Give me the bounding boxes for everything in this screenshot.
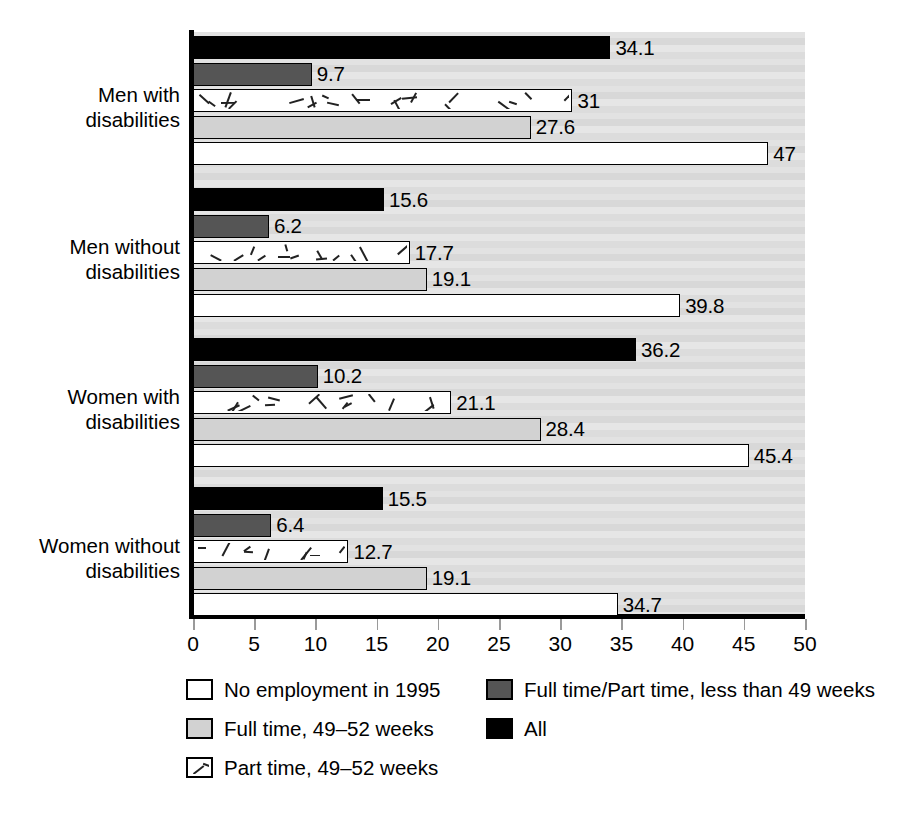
bar-ft[interactable] xyxy=(193,116,531,139)
category-label-line: Women without xyxy=(5,533,180,558)
bar-row: 28.4 xyxy=(193,418,813,441)
bar-ft[interactable] xyxy=(193,567,427,590)
bar-value-label: 39.8 xyxy=(685,294,724,318)
bar-none[interactable] xyxy=(193,593,618,616)
legend-swatch-ftpt-icon xyxy=(486,679,513,700)
legend-item-ftpt[interactable]: Full time/Part time, less than 49 weeks xyxy=(486,679,875,700)
bar-row: 47 xyxy=(193,142,813,165)
bar-ftpt[interactable] xyxy=(193,215,269,238)
bar-value-label: 27.6 xyxy=(536,115,575,139)
category-label-line: Men without xyxy=(5,234,180,259)
bar-row: 39.8 xyxy=(193,294,813,317)
x-tick xyxy=(254,619,256,630)
bar-row: 36.2 xyxy=(193,338,813,361)
category-label-3: Women withoutdisabilities xyxy=(5,533,180,583)
x-tick xyxy=(438,619,440,630)
bar-row: 45.4 xyxy=(193,444,813,467)
legend-swatch-all-icon xyxy=(486,718,513,739)
bar-pt[interactable] xyxy=(193,241,410,264)
x-tick xyxy=(805,619,807,630)
x-tick-label: 45 xyxy=(732,632,755,656)
x-tick-label: 15 xyxy=(365,632,388,656)
category-label-2: Women withdisabilities xyxy=(5,384,180,434)
legend-item-none[interactable]: No employment in 1995 xyxy=(186,679,441,700)
bar-value-label: 28.4 xyxy=(546,417,585,441)
category-label-line: Men with xyxy=(5,82,180,107)
bar-row: 31 xyxy=(193,89,813,112)
bar-row: 27.6 xyxy=(193,116,813,139)
bar-all[interactable] xyxy=(193,338,636,361)
x-tick-label: 50 xyxy=(793,632,816,656)
x-tick-label: 35 xyxy=(610,632,633,656)
bar-row: 10.2 xyxy=(193,365,813,388)
bar-row: 17.7 xyxy=(193,241,813,264)
bar-row: 19.1 xyxy=(193,268,813,291)
bar-value-label: 9.7 xyxy=(317,62,345,86)
x-tick xyxy=(560,619,562,630)
hatch-pattern xyxy=(196,92,569,109)
bar-row: 6.2 xyxy=(193,215,813,238)
bar-ft[interactable] xyxy=(193,418,541,441)
category-label-line: disabilities xyxy=(5,107,180,132)
x-tick-label: 0 xyxy=(187,632,199,656)
x-tick xyxy=(621,619,623,630)
bar-row: 21.1 xyxy=(193,391,813,414)
bar-value-label: 6.2 xyxy=(274,214,302,238)
legend-swatch-ft-icon xyxy=(186,718,213,739)
category-label-line: disabilities xyxy=(5,259,180,284)
bar-value-label: 19.1 xyxy=(432,566,471,590)
hatch-pattern xyxy=(190,761,209,774)
legend-item-pt[interactable]: Part time, 49–52 weeks xyxy=(186,757,438,778)
x-tick xyxy=(315,619,317,630)
bar-value-label: 12.7 xyxy=(353,540,392,564)
bar-all[interactable] xyxy=(193,188,384,211)
bar-ftpt[interactable] xyxy=(193,365,318,388)
legend-label: Full time/Part time, less than 49 weeks xyxy=(524,679,875,700)
bar-value-label: 47 xyxy=(773,142,795,166)
category-label-line: Women with xyxy=(5,384,180,409)
x-tick xyxy=(193,619,195,630)
bar-row: 6.4 xyxy=(193,514,813,537)
bar-ft[interactable] xyxy=(193,268,427,291)
bar-value-label: 17.7 xyxy=(415,241,454,265)
bar-pt[interactable] xyxy=(193,391,451,414)
bar-row: 9.7 xyxy=(193,63,813,86)
bar-value-label: 19.1 xyxy=(432,267,471,291)
hatch-pattern xyxy=(196,244,407,261)
bar-none[interactable] xyxy=(193,294,680,317)
x-tick xyxy=(377,619,379,630)
legend-label: No employment in 1995 xyxy=(224,679,441,700)
bar-row: 19.1 xyxy=(193,567,813,590)
bar-value-label: 45.4 xyxy=(754,444,793,468)
bar-value-label: 34.1 xyxy=(615,36,654,60)
bar-all[interactable] xyxy=(193,487,383,510)
legend-item-ft[interactable]: Full time, 49–52 weeks xyxy=(186,718,434,739)
bar-all[interactable] xyxy=(193,36,610,59)
x-tick-label: 40 xyxy=(671,632,694,656)
category-label-line: disabilities xyxy=(5,558,180,583)
bar-value-label: 36.2 xyxy=(641,338,680,362)
hatch-pattern xyxy=(196,394,448,411)
legend: No employment in 1995Full time/Part time… xyxy=(186,679,846,789)
category-label-0: Men withdisabilities xyxy=(5,82,180,132)
bar-value-label: 21.1 xyxy=(456,391,495,415)
x-tick-label: 10 xyxy=(304,632,327,656)
x-tick-label: 5 xyxy=(248,632,260,656)
bar-none[interactable] xyxy=(193,444,749,467)
x-tick xyxy=(499,619,501,630)
bar-none[interactable] xyxy=(193,142,768,165)
bar-ftpt[interactable] xyxy=(193,63,312,86)
bar-pt[interactable] xyxy=(193,89,572,112)
legend-label: All xyxy=(524,718,547,739)
bar-value-label: 34.7 xyxy=(623,593,662,617)
bar-pt[interactable] xyxy=(193,540,348,563)
legend-swatch-pt-icon xyxy=(186,757,213,778)
x-tick-label: 25 xyxy=(487,632,510,656)
legend-item-all[interactable]: All xyxy=(486,718,547,739)
bar-row: 12.7 xyxy=(193,540,813,563)
bar-value-label: 10.2 xyxy=(323,364,362,388)
category-label-1: Men withoutdisabilities xyxy=(5,234,180,284)
bar-row: 34.1 xyxy=(193,36,813,59)
bar-chart: 34.19.73127.64715.66.217.719.139.836.210… xyxy=(0,0,903,827)
bar-ftpt[interactable] xyxy=(193,514,271,537)
